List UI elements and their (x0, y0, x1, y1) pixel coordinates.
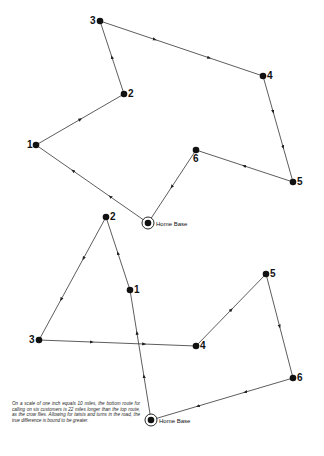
home-base-marker (145, 220, 152, 227)
direction-arrow-icon (110, 197, 111, 198)
bottom-route: 123456Home Base (29, 211, 303, 426)
stop-label: 2 (128, 88, 134, 99)
customer-stop-marker (36, 337, 43, 344)
route-segment (263, 76, 293, 182)
stop-label: 5 (270, 268, 276, 279)
stop-label: 4 (267, 70, 273, 81)
stop-label: 6 (193, 153, 199, 164)
route-diagram: 123456Home Base123456Home Base (0, 0, 324, 456)
direction-arrow-icon (172, 186, 173, 187)
direction-arrow-icon (80, 119, 81, 120)
stop-label: 2 (110, 211, 116, 222)
route-segment (36, 145, 148, 223)
customer-stop-marker (193, 343, 200, 350)
stop-label: 1 (27, 139, 33, 150)
home-base-marker (148, 417, 155, 424)
route-segment (39, 217, 106, 340)
route-segment (39, 340, 196, 346)
direction-arrow-icon (73, 171, 74, 172)
home-base-label: Home Base (156, 221, 188, 227)
route-caption: On a scale of one inch equals 10 miles, … (12, 401, 140, 423)
stop-label: 4 (200, 340, 206, 351)
route-segment (151, 378, 293, 420)
customer-stop-marker (121, 91, 128, 98)
stop-label: 3 (29, 334, 35, 345)
stop-label: 1 (134, 284, 140, 295)
top-route: 123456Home Base (27, 15, 303, 229)
route-segment (100, 21, 263, 76)
stop-label: 6 (297, 372, 303, 383)
customer-stop-marker (290, 375, 297, 382)
customer-stop-marker (33, 142, 40, 149)
stop-label: 3 (90, 15, 96, 26)
customer-stop-marker (263, 271, 270, 278)
direction-arrow-icon (231, 310, 232, 311)
customer-stop-marker (103, 214, 110, 221)
customer-stop-marker (127, 287, 134, 294)
customer-stop-marker (97, 18, 104, 25)
customer-stop-marker (260, 73, 267, 80)
customer-stop-marker (290, 179, 297, 186)
home-base-label: Home Base (159, 418, 191, 424)
stop-label: 5 (297, 176, 303, 187)
